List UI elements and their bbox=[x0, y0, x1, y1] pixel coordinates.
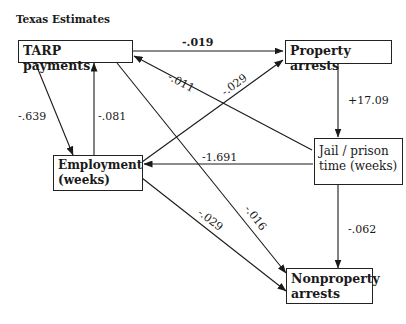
node-employment-label-2: (weeks) bbox=[58, 173, 138, 188]
label-property-jail: +17.09 bbox=[348, 94, 389, 107]
label-jail-nonproperty: -.062 bbox=[348, 223, 376, 236]
node-nonproperty-label-2: arrests bbox=[291, 286, 368, 301]
edge-employment-property bbox=[142, 60, 283, 162]
edge-employment-nonproperty bbox=[142, 178, 286, 291]
label-tarp-employment: -.639 bbox=[18, 110, 46, 123]
node-nonproperty-label-1: Nonproperty bbox=[291, 271, 368, 286]
label-tarp-property: -.019 bbox=[182, 36, 213, 49]
node-jail-label-1: Jail / prison bbox=[319, 144, 398, 159]
label-jail-tarp: -.011 bbox=[166, 70, 197, 95]
node-tarp-payments: TARP payments bbox=[18, 40, 133, 63]
label-employment-property: -.029 bbox=[219, 71, 249, 98]
label-tarp-nonproperty: -.016 bbox=[242, 203, 270, 233]
label-jail-employment: -1.691 bbox=[202, 151, 237, 164]
node-nonproperty-arrests: Nonproperty arrests bbox=[286, 268, 373, 304]
node-employment: Employment (weeks) bbox=[53, 155, 143, 191]
label-employment-nonproperty: -.029 bbox=[195, 206, 225, 234]
label-employment-tarp: -.081 bbox=[98, 110, 126, 123]
node-property-arrests: Property arrests bbox=[285, 40, 392, 64]
edge-tarp-employment bbox=[35, 62, 73, 155]
node-jail-label-2: time (weeks) bbox=[319, 159, 398, 174]
node-tarp-label: TARP payments bbox=[23, 43, 90, 73]
node-employment-label-1: Employment bbox=[58, 158, 138, 173]
node-jail-prison-time: Jail / prison time (weeks) bbox=[314, 138, 403, 185]
